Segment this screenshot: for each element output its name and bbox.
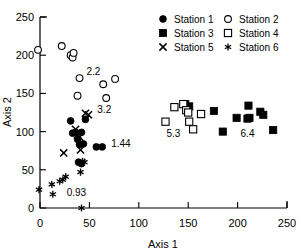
x-tick-labels: 050100150200250	[37, 217, 296, 229]
series-2-points	[35, 43, 119, 102]
annotation-label: 6.4	[241, 128, 255, 139]
open-square-point	[185, 109, 192, 116]
legend-entry-2[interactable]: Station 2	[225, 14, 279, 25]
open-circle-point	[112, 75, 119, 82]
open-circle-point	[70, 50, 77, 57]
star-point	[36, 186, 42, 193]
legend-filled-circle-icon	[160, 16, 167, 23]
x-tick-label: 200	[228, 217, 246, 229]
legend-entry-label: Station 5	[174, 42, 214, 53]
filled-square-point	[233, 114, 240, 121]
legend[interactable]: Station 1Station 2Station 3Station 4Stat…	[159, 14, 279, 53]
open-circle-point	[35, 46, 42, 53]
y-tick-label: 0	[28, 202, 34, 214]
plot-canvas: 050100150200250 050100150200250 2.23.21.…	[0, 0, 302, 252]
legend-entry-3[interactable]: Station 3	[159, 28, 214, 39]
x-tick-label: 0	[37, 217, 43, 229]
open-square-point	[197, 110, 204, 117]
filled-square-point	[246, 114, 253, 121]
x-axis-title: Axis 1	[148, 238, 178, 250]
legend-entry-1[interactable]: Station 1	[160, 14, 214, 25]
star-point	[50, 191, 56, 198]
y-axis-title: Axis 2	[1, 97, 13, 127]
filled-square-point	[270, 126, 277, 133]
legend-filled-square-icon	[159, 29, 166, 36]
annotation-label: 5.3	[166, 128, 180, 139]
series-5-points	[60, 110, 92, 157]
open-square-point	[162, 118, 169, 125]
open-circle-point	[58, 43, 65, 50]
legend-entry-label: Station 1	[174, 14, 214, 25]
star-point	[49, 181, 55, 188]
open-circle-point	[76, 75, 83, 82]
open-circle-point	[100, 81, 107, 88]
y-tick-label: 250	[16, 11, 34, 23]
y-tick-label: 50	[22, 164, 34, 176]
y-tick-labels: 050100150200250	[16, 11, 34, 214]
filled-square-point	[219, 128, 226, 135]
legend-entry-label: Station 2	[239, 14, 279, 25]
legend-open-square-icon	[224, 29, 231, 36]
x-tick-label: 150	[179, 217, 197, 229]
open-circle-point	[74, 92, 81, 99]
filled-square-point	[260, 111, 267, 118]
y-tick-label: 150	[16, 87, 34, 99]
x-tick-label: 50	[83, 217, 95, 229]
annotation-label: 2.2	[86, 66, 100, 77]
filled-square-point	[210, 107, 217, 114]
legend-open-circle-icon	[225, 16, 232, 23]
filled-square-point	[245, 102, 252, 109]
filled-circle-point	[99, 143, 106, 150]
open-square-point	[190, 126, 197, 133]
legend-entry-4[interactable]: Station 4	[224, 28, 279, 39]
legend-entry-5[interactable]: Station 5	[159, 42, 214, 53]
star-point	[77, 168, 83, 175]
x-point	[60, 149, 67, 156]
open-circle-point	[103, 95, 110, 102]
annotation-label: 0.93	[67, 187, 87, 198]
scatter-plot-figure: 050100150200250 050100150200250 2.23.21.…	[0, 0, 302, 252]
open-square-point	[171, 104, 178, 111]
x-tick-label: 250	[278, 217, 296, 229]
annotation-label: 1.44	[111, 138, 131, 149]
open-square-point	[186, 118, 193, 125]
legend-entry-label: Station 6	[239, 42, 279, 53]
series-1-points	[67, 116, 105, 167]
y-tick-label: 200	[16, 49, 34, 61]
legend-entry-label: Station 4	[239, 28, 279, 39]
legend-entry-label: Station 3	[174, 28, 214, 39]
legend-x-icon	[159, 43, 166, 50]
y-tick-label: 100	[16, 126, 34, 138]
filled-circle-point	[67, 118, 74, 125]
legend-entry-6[interactable]: Station 6	[225, 42, 279, 53]
annotation-label: 3.2	[97, 104, 111, 115]
x-tick-label: 100	[130, 217, 148, 229]
legend-star-icon	[225, 43, 231, 50]
